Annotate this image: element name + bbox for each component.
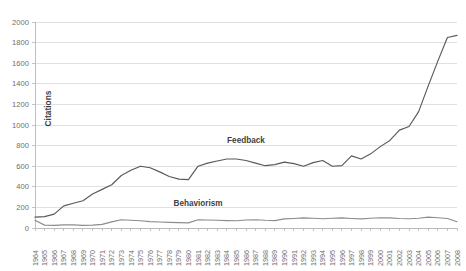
x-tick-label: 1978 [165,250,174,266]
x-tick-label: 1988 [261,250,270,266]
x-tick-label: 1979 [174,250,183,266]
x-tick-label: 2006 [433,250,442,266]
x-tick-label: 1991 [290,250,299,266]
x-tick-label: 1967 [59,250,68,266]
x-tick-label: 1964 [31,250,40,266]
x-tick-label: 1973 [117,250,126,266]
y-tick-label: 800 [16,141,29,150]
x-tick-label: 1975 [136,250,145,266]
x-tick-label: 1989 [270,250,279,266]
y-tick-label: 1600 [12,59,29,68]
x-tick-label: 1993 [309,250,318,266]
y-tick-label: 1400 [12,79,29,88]
y-axis-title: Citations [43,90,53,126]
series-line-behaviorism [35,217,457,225]
x-tick-label: 1997 [347,250,356,266]
y-tick-label: 2000 [12,18,29,27]
y-axis-tick-labels: 0200400600800100012001400160018002000 [12,18,29,233]
x-tick-label: 2004 [414,250,423,266]
x-tick-label: 1968 [69,250,78,266]
y-tick-label: 400 [16,182,29,191]
series-line-feedback [35,35,457,217]
x-tick-label: 1976 [146,250,155,266]
y-tick-label: 1800 [12,38,29,47]
x-tick-label: 1971 [98,250,107,266]
x-tick-label: 2007 [443,250,452,266]
x-tick-label: 2005 [424,250,433,266]
x-tick-label: 1974 [127,250,136,266]
x-tick-label: 1970 [88,250,97,266]
x-tick-label: 1994 [318,250,327,266]
x-tick-label: 1986 [242,250,251,266]
y-tick-label: 1000 [12,121,29,130]
x-tick-label: 1984 [222,250,231,266]
x-tick-label: 2001 [385,250,394,266]
y-tick-label: 1200 [12,100,29,109]
x-tick-label: 2008 [453,250,462,266]
x-tick-label: 1985 [232,250,241,266]
x-tick-label: 2000 [376,250,385,266]
chart-canvas: 0200400600800100012001400160018002000 19… [0,0,466,271]
x-tick-label: 1996 [338,250,347,266]
x-tick-label: 1969 [79,250,88,266]
x-tick-label: 1990 [280,250,289,266]
x-tick-label: 1977 [155,250,164,266]
y-tick-label: 200 [16,203,29,212]
x-tick-label: 1998 [357,250,366,266]
gridlines [35,22,457,228]
x-tick-label: 2003 [405,250,414,266]
series-label-behaviorism: Behaviorism [173,199,222,208]
y-tick-label: 600 [16,162,29,171]
x-tick-label: 2002 [395,250,404,266]
x-tick-label: 1987 [251,250,260,266]
x-tick-label: 1992 [299,250,308,266]
y-axis-title-text: Citations [43,90,53,126]
x-tick-label: 1982 [203,250,212,266]
x-tick-label: 1981 [194,250,203,266]
series-annotations: FeedbackBehaviorism [173,136,265,209]
x-tick-label: 1995 [328,250,337,266]
series-label-feedback: Feedback [227,136,265,145]
axes [32,22,457,231]
x-tick-label: 1966 [50,250,59,266]
data-series [35,35,457,225]
x-tick-label: 1980 [184,250,193,266]
x-tick-label: 1983 [213,250,222,266]
citations-line-chart: 0200400600800100012001400160018002000 19… [0,0,466,271]
x-axis-tick-labels: 1964196519661967196819691970197119721973… [31,250,462,266]
x-tick-label: 1999 [366,250,375,266]
x-tick-label: 1972 [107,250,116,266]
x-tick-label: 1965 [40,250,49,266]
y-tick-label: 0 [25,224,29,233]
